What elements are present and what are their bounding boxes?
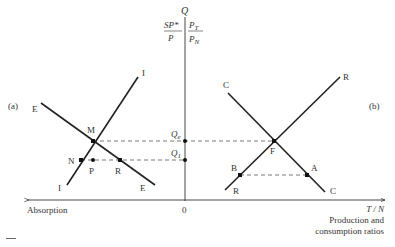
curve-e-start-label: E [32, 104, 38, 114]
point-qe [183, 139, 187, 143]
point-m-label: M [87, 125, 95, 135]
curve-c-end-label: C [330, 186, 336, 196]
curve-r-start-label: R [343, 72, 349, 82]
page-corner-mark [6, 238, 16, 239]
production-label-line1: Production and [329, 215, 384, 225]
point-q1 [183, 158, 187, 162]
right-ratio-numerator: PT [188, 20, 200, 32]
left-ratio-denominator: P [167, 33, 174, 43]
point-n-label: N [68, 156, 75, 166]
point-r-label: R [115, 166, 121, 176]
point-p-label: P [89, 166, 94, 176]
curve-i-start-label: I [142, 68, 145, 78]
left-ratio-numerator: SP* [164, 20, 179, 30]
diagram-canvas: Q SP* P PT PN 0 Absorption T / N Product… [0, 0, 395, 247]
production-label-line2: consumption ratios [315, 226, 384, 236]
point-b [238, 173, 242, 177]
point-a-label: A [311, 163, 318, 173]
curve-c [228, 93, 325, 192]
tn-label: T / N [366, 204, 385, 214]
curve-r-end-label: R [233, 186, 239, 196]
point-f [272, 139, 276, 143]
curve-c-start-label: C [223, 80, 229, 90]
point-a [305, 173, 309, 177]
curve-i [67, 77, 138, 185]
point-r [118, 158, 122, 162]
origin-label: 0 [182, 205, 187, 215]
point-m [91, 139, 95, 143]
point-f-label: F [270, 146, 275, 156]
point-n [79, 158, 83, 162]
curve-i-end-label: I [58, 183, 61, 193]
point-p [91, 158, 95, 162]
point-b-label: B [231, 163, 237, 173]
point-q1-label: Q1 [171, 148, 181, 160]
q-axis-label: Q [181, 5, 189, 16]
panel-b-label: (b) [369, 101, 380, 111]
point-qe-label: Qe [171, 129, 181, 141]
curve-e-end-label: E [140, 183, 146, 193]
panel-a-label: (a) [8, 101, 18, 111]
curve-r [225, 77, 340, 190]
right-ratio-denominator: PN [188, 34, 200, 46]
curve-e [41, 103, 155, 185]
absorption-label: Absorption [27, 205, 68, 215]
